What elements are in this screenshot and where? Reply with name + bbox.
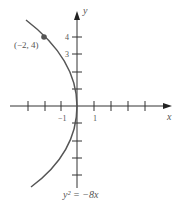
y-axis-label: y (82, 5, 88, 16)
x-axis-arrow-icon (163, 103, 172, 109)
x-tick-label-neg1: −1 (58, 114, 67, 123)
x-tick-label-1: 1 (93, 114, 97, 123)
x-axis: −1 1 x (10, 101, 172, 123)
y-axis-arrow-icon (74, 11, 80, 20)
point-marker (41, 34, 47, 40)
equation-label: y² = −8x (62, 189, 99, 200)
point-label: (−2, 4) (14, 40, 39, 50)
x-axis-label: x (166, 111, 172, 122)
y-tick-label-4: 4 (65, 33, 69, 42)
y-tick-label-3: 3 (65, 50, 69, 59)
parabola-chart: −1 1 x 4 3 y (−2, 4) y² = −8x (0, 0, 184, 214)
